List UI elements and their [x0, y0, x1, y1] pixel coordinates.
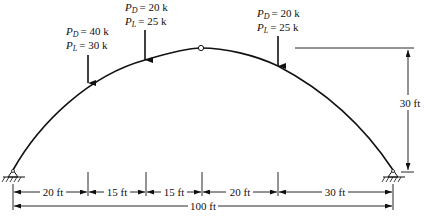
- svg-text:PL= 30 k: PL= 30 k: [65, 39, 108, 53]
- load-1-label: PD= 40 k PL= 30 k: [65, 25, 109, 53]
- total-dimension-label: 100 ft: [190, 200, 216, 212]
- load-3-label: PD= 20 k PL= 25 k: [256, 7, 300, 35]
- arch-curve: [13, 48, 393, 170]
- right-pin-support-icon: [382, 170, 405, 183]
- height-dimension: 30 ft: [295, 48, 424, 172]
- load-2-label: PD= 20 k PL= 25 k: [124, 1, 168, 29]
- svg-text:PL= 25 k: PL= 25 k: [256, 21, 299, 35]
- segment-2-label: 15 ft: [107, 186, 127, 198]
- svg-text:PD= 20 k: PD= 20 k: [256, 7, 300, 21]
- segment-5-label: 30 ft: [325, 186, 345, 198]
- segment-dimensions: 20 ft 15 ft 15 ft 20 ft 30 ft: [14, 186, 392, 198]
- segment-4-label: 20 ft: [230, 186, 250, 198]
- segment-1-label: 20 ft: [43, 186, 63, 198]
- svg-text:PL= 25 k: PL= 25 k: [124, 15, 167, 29]
- height-dimension-label: 30 ft: [400, 97, 420, 109]
- arch-diagram: PD= 40 k PL= 30 k PD= 20 k PL= 25 k PD= …: [0, 0, 426, 216]
- crown-hinge-icon: [198, 45, 203, 50]
- total-dimension: 100 ft: [14, 200, 392, 212]
- svg-text:PD= 20 k: PD= 20 k: [124, 1, 168, 15]
- segment-3-label: 15 ft: [164, 186, 184, 198]
- svg-text:PD= 40 k: PD= 40 k: [65, 25, 109, 39]
- left-pin-support-icon: [2, 170, 25, 183]
